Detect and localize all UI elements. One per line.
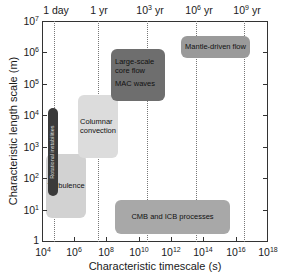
region-label: CMB and ICB processes — [127, 211, 217, 224]
y-tickmark — [42, 115, 47, 116]
y-tickmark — [263, 52, 268, 53]
x-tickmark — [106, 237, 107, 242]
x-tick-label: 1010 — [129, 246, 148, 258]
y-tick-label: 1 — [33, 234, 39, 246]
x-tickmark — [203, 237, 204, 242]
y-tickmark — [263, 178, 268, 179]
y-tick-label: 104 — [23, 109, 39, 121]
x-tickmark — [236, 237, 237, 242]
x-tick-label: 104 — [35, 246, 51, 258]
y-tick-label: 107 — [23, 15, 39, 27]
region-mantle-driven-flow: Mantle-driven flow — [181, 36, 250, 58]
y-axis-label: Characteristic length scale (m) — [7, 57, 19, 206]
y-tick-label: 101 — [23, 204, 39, 216]
x-tick-label: 1018 — [258, 246, 277, 258]
top-label-1e9-yr: 109 yr — [233, 4, 260, 16]
top-label-1e6-yr: 106 yr — [185, 4, 212, 16]
y-tick-label: 102 — [23, 172, 39, 184]
x-tick-label: 106 — [66, 246, 82, 258]
y-tick-label: 103 — [23, 141, 39, 153]
y-tickmark — [263, 115, 268, 116]
region-cmb-icb-processes: CMB and ICB processes — [115, 200, 230, 234]
region-rotational-instabilities: Rotational instabilities — [48, 108, 58, 196]
y-tickmark — [42, 147, 47, 148]
x-tick-label: 1016 — [226, 246, 245, 258]
region-label: Rotational instabilities — [50, 125, 56, 178]
x-tickmark — [171, 237, 172, 242]
y-tickmark — [42, 210, 47, 211]
x-tick-label: 1012 — [161, 246, 180, 258]
top-label-1-yr: 1 yr — [90, 4, 108, 16]
y-tickmark — [42, 178, 47, 179]
top-label-1-day: 1 day — [43, 4, 69, 16]
y-tick-label: 106 — [23, 46, 39, 58]
x-tickmark — [74, 237, 75, 242]
y-tickmark — [263, 210, 268, 211]
region-label: Mantle-driven flow — [181, 41, 250, 54]
y-tickmark — [42, 52, 47, 53]
y-tick-label: 105 — [23, 78, 39, 90]
x-tickmark — [139, 237, 140, 242]
x-tick-label: 1014 — [193, 246, 212, 258]
region-large-scale-core-flow: Large-scalecore flowMAC waves — [111, 49, 165, 101]
region-label: Columnarconvection — [76, 116, 120, 137]
top-label-1e3-yr: 103 yr — [136, 4, 163, 16]
region-label: Large-scalecore flowMAC waves — [111, 56, 159, 91]
y-tickmark — [263, 84, 268, 85]
x-tick-label: 108 — [98, 246, 114, 258]
y-tickmark — [263, 147, 268, 148]
y-tickmark — [42, 84, 47, 85]
region-columnar-convection: Columnarconvection — [78, 95, 118, 158]
x-axis-label: Characteristic timescale (s) — [42, 260, 268, 272]
